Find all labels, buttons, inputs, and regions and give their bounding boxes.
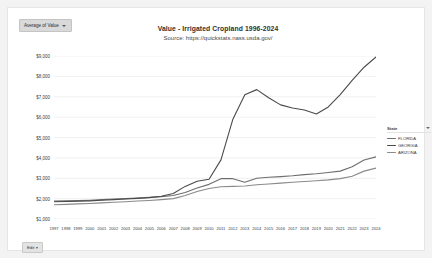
legend-item-label: ARIZONA	[398, 150, 417, 155]
y-axis-tick-label: $1,000	[36, 217, 50, 222]
y-axis-tick-label: $7,000	[36, 94, 50, 99]
y-axis-tick-label: $5,000	[36, 135, 50, 140]
measure-pill-label: Average of Value	[24, 20, 59, 31]
visualization-canvas: Average of Value Value - Irrigated Cropl…	[7, 7, 425, 251]
x-axis-tick-label: 2016	[276, 226, 285, 231]
plot-area	[54, 56, 376, 219]
x-axis-tick-label: 2001	[97, 226, 106, 231]
series-line[interactable]	[54, 157, 376, 201]
legend-item[interactable]: FLORIDA	[387, 135, 431, 142]
legend-swatch	[387, 145, 396, 146]
legend-items: FLORIDAGEORGIAARIZONA	[387, 135, 431, 156]
y-axis: $9,000$8,000$7,000$6,000$5,000$4,000$3,0…	[14, 56, 52, 219]
legend-item-label: GEORGIA	[398, 143, 418, 148]
x-axis-tick-label: 1997	[49, 226, 58, 231]
x-axis-tick-label: 2015	[264, 226, 273, 231]
x-axis-tick-label: 2021	[336, 226, 345, 231]
x-axis-tick-label: 2005	[145, 226, 154, 231]
legend-title: State	[387, 126, 398, 131]
legend-header: State	[387, 126, 431, 133]
edit-button[interactable]: Edit	[22, 242, 43, 253]
x-axis-tick-label: 2024	[371, 226, 380, 231]
legend-swatch	[387, 152, 396, 153]
x-axis-tick-label: 2013	[240, 226, 249, 231]
x-axis-tick-label: 2017	[288, 226, 297, 231]
x-axis-tick-label: 2023	[360, 226, 369, 231]
chart-source: Source: https://quickstats.nass.usda.gov…	[68, 34, 368, 43]
x-axis-tick-label: 1999	[73, 226, 82, 231]
y-axis-tick-label: $8,000	[36, 74, 50, 79]
y-axis-tick-label: $9,000	[36, 54, 50, 59]
y-axis-tick-label: $4,000	[36, 155, 50, 160]
x-axis-tick-label: 2011	[217, 226, 226, 231]
x-axis-tick-label: 2007	[169, 226, 178, 231]
legend-swatch	[387, 138, 396, 139]
x-axis-tick-label: 2006	[157, 226, 166, 231]
x-axis-tick-label: 2010	[204, 226, 213, 231]
x-axis-tick-label: 2009	[193, 226, 202, 231]
x-axis-tick-label: 2003	[121, 226, 130, 231]
legend-item[interactable]: GEORGIA	[387, 142, 431, 149]
line-chart-svg	[54, 56, 376, 219]
x-axis-tick-label: 2020	[324, 226, 333, 231]
x-axis-tick-label: 2000	[85, 226, 94, 231]
y-axis-tick-label: $6,000	[36, 115, 50, 120]
measure-pill[interactable]: Average of Value	[19, 19, 72, 32]
y-axis-tick-label: $2,000	[36, 196, 50, 201]
legend-item[interactable]: ARIZONA	[387, 149, 431, 156]
x-axis-tick-label: 1998	[61, 226, 70, 231]
legend-item-label: FLORIDA	[398, 136, 416, 141]
x-axis-tick-label: 2008	[181, 226, 190, 231]
x-axis-tick-label: 2014	[252, 226, 261, 231]
x-axis-tick-label: 2004	[133, 226, 142, 231]
y-axis-tick-label: $3,000	[36, 176, 50, 181]
x-axis-tick-label: 2018	[300, 226, 309, 231]
page-title: Value - Irrigated Cropland 1996-2024	[68, 24, 368, 34]
chevron-down-icon[interactable]	[36, 247, 38, 249]
edit-button-label: Edit	[27, 245, 34, 250]
x-axis-tick-label: 2002	[109, 226, 118, 231]
filter-icon[interactable]	[426, 126, 431, 131]
x-axis: 1997199819992000200120022003200420052006…	[54, 221, 376, 235]
chevron-down-icon[interactable]	[62, 25, 66, 27]
x-axis-tick-label: 2012	[228, 226, 237, 231]
legend[interactable]: State FLORIDAGEORGIAARIZONA	[387, 126, 431, 156]
chart-titles: Value - Irrigated Cropland 1996-2024 Sou…	[68, 24, 368, 43]
x-axis-tick-label: 2022	[348, 226, 357, 231]
x-axis-tick-label: 2019	[312, 226, 321, 231]
